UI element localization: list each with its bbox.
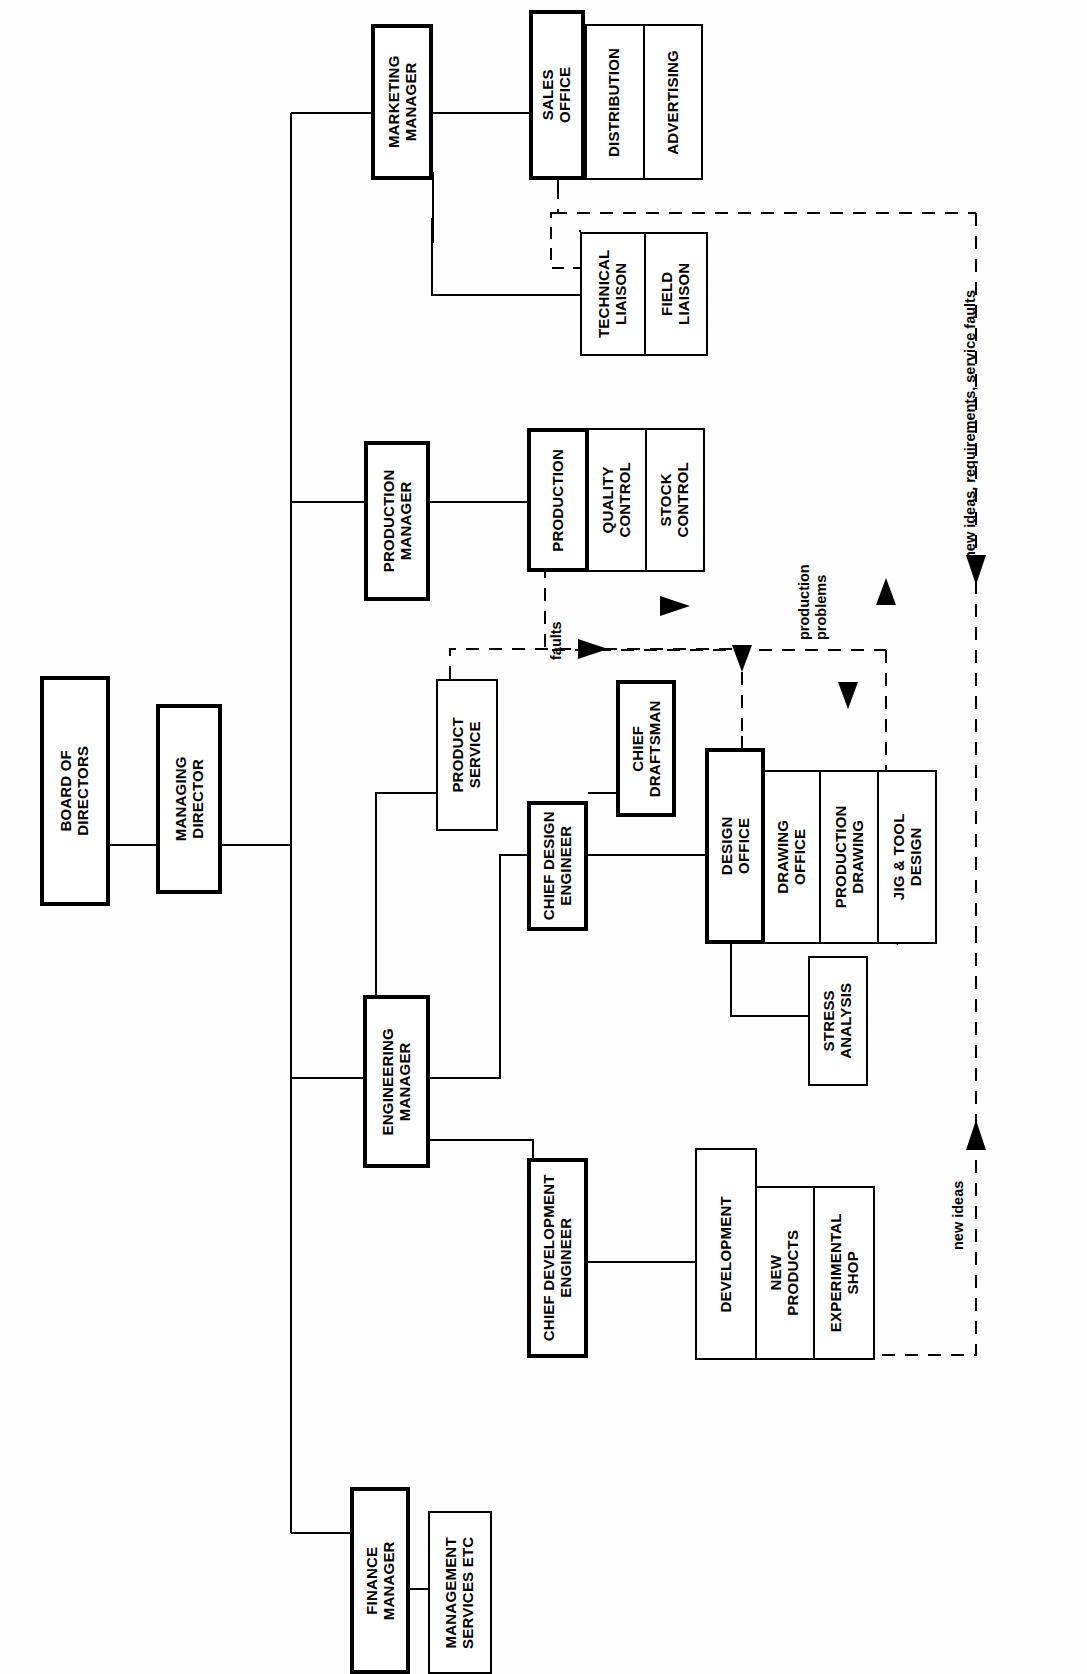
arrow-new-ideas-up [966, 1120, 986, 1150]
flow-label-production-problems: production problems [796, 564, 829, 640]
box-label: QUALITY CONTROL [600, 462, 634, 538]
box-label: FINANCE MANAGER [363, 1541, 397, 1620]
box-label: SALES OFFICE [540, 67, 574, 123]
box-label: ENGINEERING MANAGER [380, 1028, 414, 1135]
box-managing-director[interactable]: MANAGING DIRECTOR [156, 704, 222, 894]
box-label: TECHNICAL LIAISON [596, 250, 630, 338]
box-finance-manager[interactable]: FINANCE MANAGER [350, 1487, 410, 1674]
box-technical-liaison[interactable]: TECHNICAL LIAISON [580, 232, 646, 356]
box-experimental-shop[interactable]: EXPERIMENTAL SHOP [813, 1186, 875, 1360]
box-label: BOARD OF DIRECTORS [58, 746, 92, 836]
box-label: MANAGING DIRECTOR [172, 757, 206, 842]
link-engmgr-chief-design [430, 855, 527, 1078]
flow-production-problems-top [545, 565, 886, 650]
group-design-office: DESIGN OFFICE DRAWING OFFICE PRODUCTION … [705, 748, 950, 944]
box-marketing-manager[interactable]: MARKETING MANAGER [371, 24, 433, 180]
box-label: FIELD LIAISON [659, 263, 693, 325]
box-stock-control[interactable]: STOCK CONTROL [645, 428, 705, 572]
box-management-services[interactable]: MANAGEMENT SERVICES ETC [428, 1511, 492, 1674]
arrow-up-right-spine [876, 578, 896, 605]
group-production: PRODUCTION QUALITY CONTROL STOCK CONTROL [527, 428, 727, 572]
group-development: DEVELOPMENT NEW PRODUCTS EXPERIMENTAL SH… [695, 1148, 895, 1360]
box-label: PRODUCTION DRAWING [832, 806, 866, 909]
box-chief-design-engineer[interactable]: CHIEF DESIGN ENGINEER [527, 801, 588, 931]
flow-label-new-ideas-requirements-service-faults: new ideas, requirements, service faults [962, 290, 978, 560]
box-new-products[interactable]: NEW PRODUCTS [755, 1186, 815, 1360]
box-label: EXPERIMENTAL SHOP [827, 1214, 861, 1333]
box-product-service[interactable]: PRODUCT SERVICE [436, 679, 498, 831]
box-label: DRAWING OFFICE [775, 820, 809, 894]
box-development[interactable]: DEVELOPMENT [695, 1148, 757, 1360]
box-label: MARKETING MANAGER [385, 56, 419, 149]
organisation-chart: BOARD OF DIRECTORS MANAGING DIRECTOR MAR… [0, 0, 1087, 1674]
box-engineering-manager[interactable]: ENGINEERING MANAGER [363, 995, 430, 1168]
arrow-faults-right [578, 639, 608, 659]
box-label: MANAGEMENT SERVICES ETC [443, 1536, 477, 1648]
box-board-of-directors[interactable]: BOARD OF DIRECTORS [40, 676, 110, 906]
box-stress-analysis[interactable]: STRESS ANALYSIS [808, 956, 868, 1086]
box-production-manager[interactable]: PRODUCTION MANAGER [364, 441, 430, 601]
flow-label-new-ideas: new ideas [950, 1181, 966, 1250]
box-field-liaison[interactable]: FIELD LIAISON [644, 232, 708, 356]
box-design-office[interactable]: DESIGN OFFICE [705, 748, 765, 944]
box-label: ADVERTISING [665, 50, 682, 155]
box-label: JIG & TOOL DESIGN [890, 814, 924, 901]
box-jig-tool-design[interactable]: JIG & TOOL DESIGN [877, 770, 937, 944]
box-label: STOCK CONTROL [658, 462, 692, 538]
box-label: STRESS ANALYSIS [821, 983, 855, 1059]
box-label: PRODUCTION [550, 449, 567, 552]
box-label: PRODUCTION MANAGER [380, 470, 414, 573]
box-distribution[interactable]: DISTRIBUTION [585, 24, 645, 180]
box-quality-control[interactable]: QUALITY CONTROL [587, 428, 647, 572]
box-label: CHIEF DESIGN ENGINEER [541, 811, 575, 920]
box-label: CHIEF DRAFTSMAN [629, 700, 663, 797]
box-sales-office[interactable]: SALES OFFICE [529, 10, 585, 180]
link-engmgr-chief-dev [430, 1140, 533, 1262]
flow-faults [450, 649, 742, 679]
box-label: DESIGN OFFICE [718, 817, 752, 876]
box-chief-draftsman[interactable]: CHIEF DRAFTSMAN [616, 680, 676, 817]
flow-label-faults: faults [548, 621, 564, 660]
box-label: PRODUCT SERVICE [450, 717, 484, 793]
group-sales-office: SALES OFFICE DISTRIBUTION ADVERTISING [529, 10, 709, 180]
box-chief-development-engineer[interactable]: CHIEF DEVELOPMENT ENGINEER [527, 1158, 588, 1358]
arrow-production-right [660, 596, 690, 616]
box-label: NEW PRODUCTS [768, 1230, 802, 1316]
arrow-proddraw-down [838, 682, 858, 709]
link-design-stress [731, 944, 808, 1016]
arrow-prodproblems-down [732, 645, 752, 672]
box-label: CHIEF DEVELOPMENT ENGINEER [541, 1175, 575, 1342]
box-label: DISTRIBUTION [607, 47, 624, 156]
box-drawing-office[interactable]: DRAWING OFFICE [763, 770, 821, 944]
box-label: DEVELOPMENT [718, 1196, 735, 1312]
flow-sales-to-liaison [551, 213, 580, 268]
box-advertising[interactable]: ADVERTISING [643, 24, 703, 180]
box-production[interactable]: PRODUCTION [527, 428, 589, 572]
box-production-drawing[interactable]: PRODUCTION DRAWING [819, 770, 879, 944]
group-liaison: TECHNICAL LIAISON FIELD LIAISON [580, 232, 710, 356]
flow-sales-to-right-loop [558, 186, 976, 213]
